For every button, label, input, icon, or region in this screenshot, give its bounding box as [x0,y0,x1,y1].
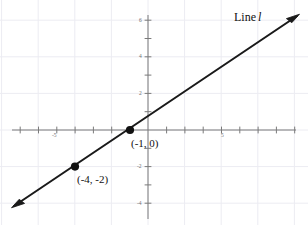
line-l-label: Linel [234,11,261,23]
x-tick-label-5: 5 [221,133,224,139]
y-tick-label-minus2: -2 [137,164,142,170]
line-l [12,14,300,208]
point-marker-minus4-minus2 [71,163,79,171]
point-label-minus1-0: (-1, 0) [131,138,159,149]
y-tick-label-minus4: -4 [137,201,142,207]
coordinate-plane-figure: -5 5 6 4 2 -2 -4 (-1, 0) (-4, -2) Linel [0,0,308,225]
x-tick-label-minus5: -5 [52,133,57,139]
line-l-label-letter: l [256,10,261,24]
y-tick-label-6: 6 [139,18,142,24]
y-tick-label-2: 2 [139,91,142,97]
point-label-minus4-minus2: (-4, -2) [77,174,108,185]
y-tick-label-4: 4 [139,54,142,60]
line-l-label-text: Line [234,10,256,24]
graph-canvas [0,0,308,225]
point-marker-minus1-0 [126,126,134,134]
